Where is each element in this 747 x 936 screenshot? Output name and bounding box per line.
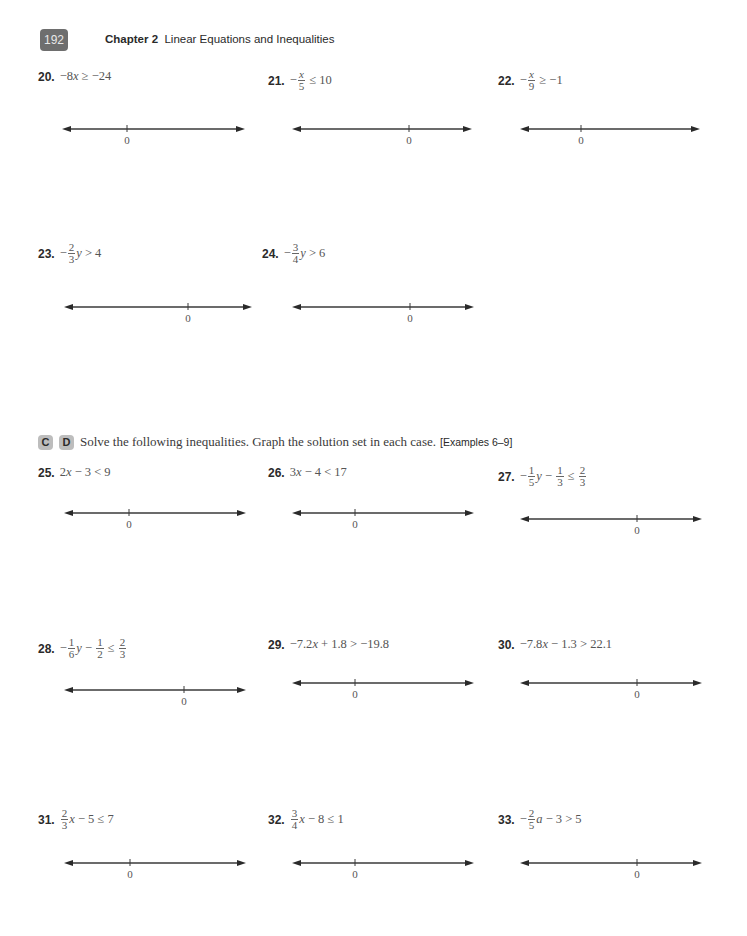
problem-25: 25.2x − 3 < 9	[38, 465, 111, 480]
zero-tick-label: 0	[407, 312, 413, 324]
zero-tick-label: 0	[181, 695, 187, 707]
left-arrow-icon	[292, 126, 301, 132]
instructions-text: Solve the following inequalities. Graph …	[80, 434, 436, 450]
denominator: 2	[96, 649, 104, 660]
denominator: 3	[556, 477, 564, 488]
expression-text: > 6	[306, 246, 326, 261]
problem-number: 22.	[498, 74, 515, 88]
left-arrow-icon	[64, 304, 73, 310]
fraction: 12	[96, 637, 104, 660]
problem-number: 26.	[268, 466, 285, 480]
problem-33: 33.−25a − 3 > 5	[498, 808, 582, 831]
zero-tick-label: 0	[352, 868, 358, 880]
problem-number: 32.	[268, 813, 285, 827]
problem-22: 22.−x9 ≥ −1	[498, 69, 563, 92]
problem-number: 28.	[38, 642, 55, 656]
left-arrow-icon	[292, 860, 301, 866]
left-arrow-icon	[520, 126, 529, 132]
left-arrow-icon	[520, 516, 529, 522]
denominator: 3	[579, 477, 587, 488]
expression-text: ≥ −24	[79, 69, 112, 84]
fraction: 13	[556, 465, 564, 488]
inequality-expression: −25a − 3 > 5	[520, 808, 582, 831]
expression-text: − 8 ≤ 1	[305, 812, 344, 827]
left-arrow-icon	[292, 304, 301, 310]
expression-text: −	[520, 812, 527, 827]
zero-tick-label: 0	[185, 312, 191, 324]
problem-number: 21.	[268, 74, 285, 88]
right-arrow-icon	[236, 126, 245, 132]
problem-32: 32.34x − 8 ≤ 1	[268, 808, 344, 831]
right-arrow-icon	[691, 126, 700, 132]
problem-30: 30.−7.8x − 1.3 > 22.1	[498, 637, 612, 652]
problem-number: 31.	[38, 813, 55, 827]
inequality-expression: −23y > 4	[60, 242, 102, 265]
fraction: x9	[528, 69, 536, 92]
zero-tick-label: 0	[124, 134, 130, 146]
problem-23: 23.−23y > 4	[38, 242, 101, 265]
expression-text: − 5 ≤ 7	[75, 812, 114, 827]
expression-text: −	[284, 246, 291, 261]
expression-text: −7.2	[290, 637, 313, 652]
denominator: 4	[291, 820, 299, 831]
zero-tick-label: 0	[127, 868, 133, 880]
problem-26: 26.3x − 4 < 17	[268, 465, 347, 480]
left-arrow-icon	[62, 126, 71, 132]
problem-number: 29.	[268, 638, 285, 652]
right-arrow-icon	[465, 304, 474, 310]
expression-text: ≥ −1	[536, 73, 562, 88]
problem-27: 27.−15y − 13 ≤ 23	[498, 465, 587, 488]
right-arrow-icon	[237, 510, 246, 516]
problem-29: 29.−7.2x + 1.8 > −19.8	[268, 637, 389, 652]
problem-20: 20.−8x ≥ −24	[38, 69, 111, 84]
zero-tick-label: 0	[578, 134, 584, 146]
right-arrow-icon	[465, 510, 474, 516]
expression-text: − 1.3 > 22.1	[548, 637, 612, 652]
problem-number: 33.	[498, 813, 515, 827]
right-arrow-icon	[465, 860, 474, 866]
inequality-expression: −16y − 12 ≤ 23	[60, 637, 128, 660]
denominator: 3	[68, 254, 76, 265]
inequality-expression: −7.2x + 1.8 > −19.8	[290, 637, 389, 652]
expression-text: −	[60, 246, 67, 261]
inequality-expression: −8x ≥ −24	[60, 69, 112, 84]
denominator: 3	[119, 649, 127, 660]
right-arrow-icon	[693, 680, 702, 686]
problem-number: 27.	[498, 470, 515, 484]
zero-tick-label: 0	[634, 524, 640, 536]
chapter-header: Chapter 2 Linear Equations and Inequalit…	[105, 33, 335, 45]
expression-text: −	[542, 469, 555, 484]
denominator: 5	[528, 477, 536, 488]
fraction: 34	[292, 242, 300, 265]
problem-24: 24.−34y > 6	[262, 242, 325, 265]
expression-text: −7.8	[520, 637, 543, 652]
chapter-title: Linear Equations and Inequalities	[164, 33, 334, 45]
expression-text: −	[520, 469, 527, 484]
zero-tick-label: 0	[126, 518, 132, 530]
fraction: 16	[68, 637, 76, 660]
zero-tick-label: 0	[406, 134, 412, 146]
fraction: 25	[528, 808, 536, 831]
right-arrow-icon	[465, 680, 474, 686]
left-arrow-icon	[292, 510, 301, 516]
expression-text: −8	[60, 69, 73, 84]
problem-21: 21.−x5 ≤ 10	[268, 69, 332, 92]
expression-text: − 4 < 17	[302, 465, 347, 480]
expression-text: −	[60, 641, 67, 656]
inequality-expression: −x9 ≥ −1	[520, 69, 563, 92]
left-arrow-icon	[64, 510, 73, 516]
expression-text: > 4	[82, 246, 102, 261]
expression-text: ≤	[105, 641, 118, 656]
inequality-expression: −34y > 6	[284, 242, 326, 265]
fraction: 34	[291, 808, 299, 831]
denominator: 9	[528, 81, 536, 92]
denominator: 6	[68, 649, 76, 660]
problem-number: 25.	[38, 466, 55, 480]
fraction: 23	[579, 465, 587, 488]
problem-number: 23.	[38, 247, 55, 261]
denominator: 3	[61, 820, 69, 831]
examples-reference: [Examples 6–9]	[440, 436, 512, 448]
denominator: 5	[528, 820, 536, 831]
expression-text: ≤	[565, 469, 578, 484]
expression-text: − 3 < 9	[72, 465, 111, 480]
